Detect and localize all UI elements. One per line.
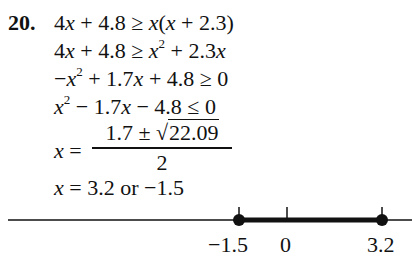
problem-number: 20. bbox=[8, 10, 36, 36]
step-2: 4x + 4.8 ≥ x2 + 2.3x bbox=[54, 38, 226, 64]
fraction-bar bbox=[92, 147, 232, 149]
radicand: 22.09 bbox=[168, 119, 219, 145]
solution-line: x = 3.2 or −1.5 bbox=[54, 175, 184, 201]
closed-endpoint-left bbox=[233, 214, 245, 226]
step-3: −x2 + 1.7x + 4.8 ≥ 0 bbox=[54, 66, 228, 92]
closed-endpoint-right bbox=[376, 214, 388, 226]
number-line bbox=[0, 200, 412, 262]
label-3-2: 3.2 bbox=[367, 232, 395, 258]
step-4: x2 − 1.7x − 4.8 ≤ 0 bbox=[54, 94, 216, 120]
fraction-denominator: 2 bbox=[92, 150, 232, 176]
label-0: 0 bbox=[280, 232, 291, 258]
label-neg1-5: −1.5 bbox=[208, 232, 248, 258]
step-1: 4x + 4.8 ≥ x(x + 2.3) bbox=[54, 10, 234, 36]
fraction-numerator: 1.7 ± √22.09 bbox=[92, 120, 232, 146]
